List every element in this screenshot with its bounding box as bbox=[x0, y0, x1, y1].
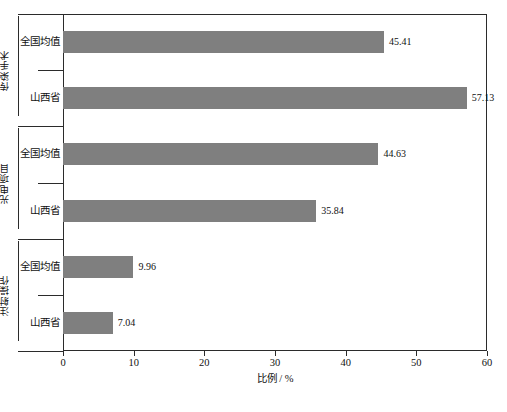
category-tick-label: 山西省 bbox=[30, 93, 60, 104]
bar-value-label: 9.96 bbox=[138, 262, 156, 272]
chart-figure: 传染手术全国均值山西省光电项目全国均值山西省注射操作全国均值山西省 45.415… bbox=[0, 0, 507, 412]
bar-value-label: 57.13 bbox=[472, 93, 495, 103]
bar-row: 7.04 bbox=[63, 312, 487, 334]
x-axis-tick-label: 10 bbox=[128, 358, 139, 369]
figure-caption bbox=[18, 400, 488, 409]
bar bbox=[63, 87, 467, 109]
category-minor-tick bbox=[38, 183, 63, 184]
value-axis: 0102030405060 bbox=[63, 351, 487, 391]
x-axis-tick bbox=[275, 351, 276, 356]
x-axis-tick-label: 20 bbox=[199, 358, 210, 369]
bar bbox=[63, 256, 133, 278]
category-tick-label: 山西省 bbox=[30, 205, 60, 216]
x-axis-tick bbox=[63, 351, 64, 356]
x-axis-tick-label: 50 bbox=[411, 358, 422, 369]
bar-row: 35.84 bbox=[63, 200, 487, 222]
x-axis-tick bbox=[204, 351, 205, 356]
category-minor-tick bbox=[38, 70, 63, 71]
category-major-tick bbox=[18, 239, 63, 240]
category-group-label: 注射操作 bbox=[1, 274, 11, 316]
x-axis-tick-label: 0 bbox=[60, 358, 65, 369]
bar-value-label: 45.41 bbox=[389, 37, 412, 47]
bar-row: 57.13 bbox=[63, 87, 487, 109]
bar-row: 44.63 bbox=[63, 143, 487, 165]
bars-layer: 45.4157.1344.6335.849.967.04 bbox=[63, 14, 487, 351]
category-major-tick bbox=[18, 14, 63, 15]
x-axis-tick-label: 40 bbox=[340, 358, 351, 369]
x-axis-title: 比例 / % bbox=[63, 374, 487, 385]
x-axis-tick-label: 30 bbox=[270, 358, 281, 369]
bar bbox=[63, 143, 378, 165]
x-axis-tick-label: 60 bbox=[482, 358, 493, 369]
bar bbox=[63, 31, 384, 53]
category-major-tick bbox=[18, 126, 63, 127]
bar-row: 9.96 bbox=[63, 256, 487, 278]
category-group-label: 光电项目 bbox=[1, 162, 11, 204]
bar bbox=[63, 312, 113, 334]
category-tick-label: 全国均值 bbox=[20, 262, 60, 273]
x-axis-tick bbox=[134, 351, 135, 356]
category-tick-label: 全国均值 bbox=[20, 149, 60, 160]
category-axis-spine bbox=[18, 16, 19, 116]
bar bbox=[63, 200, 316, 222]
bar-value-label: 7.04 bbox=[118, 318, 136, 328]
x-axis-tick bbox=[346, 351, 347, 356]
category-tick-label: 全国均值 bbox=[20, 37, 60, 48]
bar-value-label: 44.63 bbox=[383, 149, 406, 159]
bar-row: 45.41 bbox=[63, 31, 487, 53]
category-group-label: 传染手术 bbox=[1, 49, 11, 91]
category-axis: 传染手术全国均值山西省光电项目全国均值山西省注射操作全国均值山西省 bbox=[0, 14, 63, 351]
bar-value-label: 35.84 bbox=[321, 206, 344, 216]
category-tick-label: 山西省 bbox=[30, 318, 60, 329]
category-axis-spine bbox=[18, 241, 19, 341]
category-axis-spine bbox=[18, 128, 19, 228]
x-axis-tick bbox=[487, 351, 488, 356]
category-minor-tick bbox=[38, 295, 63, 296]
x-axis-tick bbox=[416, 351, 417, 356]
category-major-tick bbox=[18, 351, 63, 352]
